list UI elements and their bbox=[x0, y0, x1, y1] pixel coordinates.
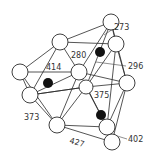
distance-label: 402 bbox=[128, 135, 143, 144]
atom-circle bbox=[104, 134, 120, 150]
distance-label: 280 bbox=[71, 51, 86, 60]
distance-label: 296 bbox=[128, 62, 143, 71]
atom-circle bbox=[52, 34, 68, 50]
atom-circle bbox=[49, 117, 65, 133]
atom-circle bbox=[79, 80, 93, 94]
atom-circle bbox=[71, 64, 87, 80]
filled-atom-dot bbox=[95, 47, 105, 57]
filled-atom-dot bbox=[96, 110, 106, 120]
distance-label: 375 bbox=[94, 91, 109, 100]
distance-label: 273 bbox=[114, 23, 129, 32]
atom-circle bbox=[119, 75, 135, 91]
filled-atom-dot bbox=[43, 78, 53, 88]
atom-circle bbox=[22, 87, 38, 103]
open-atoms bbox=[12, 14, 135, 150]
distance-label: 427 bbox=[68, 136, 85, 149]
distance-label: 414 bbox=[46, 63, 61, 72]
distance-label: 373 bbox=[24, 113, 39, 122]
structure-diagram: 273 280 414 296 375 373 427 402 bbox=[0, 0, 156, 158]
atom-circle bbox=[12, 64, 28, 80]
atom-circle bbox=[108, 36, 124, 52]
atom-circle bbox=[99, 119, 115, 135]
